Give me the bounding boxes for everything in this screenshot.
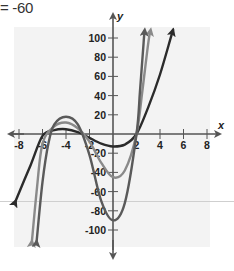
y-axis-label: y (116, 10, 124, 22)
y-tick-label: 80 (94, 51, 106, 63)
x-tick-label: 4 (157, 139, 163, 151)
axes: xy-8-6-4-2246810080604020-20-40-60-80-10… (9, 10, 225, 258)
y-tick-label: 100 (88, 32, 106, 44)
y-tick-label: 60 (94, 70, 106, 82)
x-tick-label: -8 (14, 139, 23, 151)
y-tick-label: 20 (94, 109, 106, 121)
polynomial-graph: xy-8-6-4-2246810080604020-20-40-60-80-10… (0, 0, 234, 271)
y-tick-label: 40 (94, 90, 106, 102)
x-tick-label: 8 (204, 139, 210, 151)
x-tick-label: -4 (61, 139, 70, 151)
x-axis-label: x (217, 119, 225, 131)
y-tick-label: -100 (85, 224, 106, 236)
x-tick-label: 6 (181, 139, 187, 151)
